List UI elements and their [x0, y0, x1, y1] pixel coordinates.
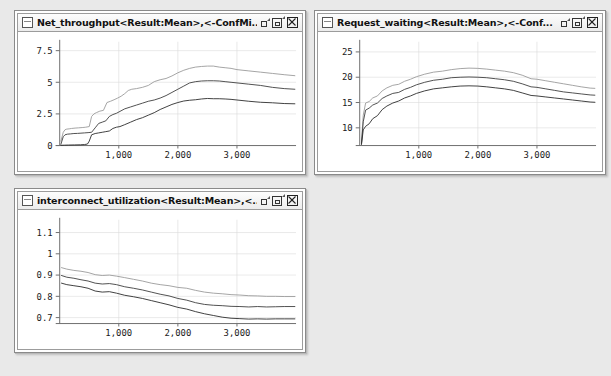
- svg-text:2,000: 2,000: [464, 150, 491, 160]
- svg-text:0: 0: [47, 141, 52, 151]
- document-icon: [22, 195, 33, 206]
- chart-plot-net-throughput: 02.557.51,0002,0003,000: [18, 32, 302, 171]
- maximize-icon[interactable]: [272, 196, 282, 206]
- svg-text:10: 10: [342, 123, 353, 133]
- svg-text:2.5: 2.5: [37, 109, 53, 119]
- svg-text:2,000: 2,000: [164, 150, 191, 160]
- minimize-icon[interactable]: [261, 199, 267, 205]
- chart-plot-interconnect-utilization: 0.70.80.911.11,0002,0003,000: [18, 210, 302, 349]
- svg-text:3,000: 3,000: [224, 150, 251, 160]
- svg-text:7.5: 7.5: [37, 46, 53, 56]
- window-title: Net_throughput<Result:Mean>,<-ConfMi...: [37, 17, 257, 29]
- chart-window-interconnect-utilization[interactable]: interconnect_utilization<Result:Mean>,<.…: [14, 188, 306, 353]
- svg-text:0.7: 0.7: [37, 313, 53, 323]
- svg-text:5: 5: [47, 78, 52, 88]
- svg-text:1: 1: [47, 249, 52, 259]
- window-inner-frame: Request_waiting<Result:Mean>,<-Conf... 1…: [317, 13, 603, 172]
- svg-text:3,000: 3,000: [524, 150, 551, 160]
- close-icon[interactable]: [287, 17, 298, 28]
- window-controls: [261, 17, 299, 28]
- svg-text:0.9: 0.9: [37, 270, 53, 280]
- window-controls: [561, 17, 599, 28]
- svg-text:20: 20: [342, 73, 353, 83]
- svg-text:3,000: 3,000: [224, 328, 251, 338]
- window-titlebar[interactable]: Request_waiting<Result:Mean>,<-Conf...: [318, 14, 602, 32]
- chart-svg: 101520251,0002,0003,000: [318, 32, 602, 171]
- svg-text:2,000: 2,000: [164, 328, 191, 338]
- chart-window-request-waiting[interactable]: Request_waiting<Result:Mean>,<-Conf... 1…: [314, 10, 606, 175]
- maximize-icon[interactable]: [272, 18, 282, 28]
- document-icon: [322, 17, 333, 28]
- window-inner-frame: interconnect_utilization<Result:Mean>,<.…: [17, 191, 303, 350]
- window-titlebar[interactable]: interconnect_utilization<Result:Mean>,<.…: [18, 192, 302, 210]
- svg-text:1,000: 1,000: [405, 150, 432, 160]
- chart-window-net-throughput[interactable]: Net_throughput<Result:Mean>,<-ConfMi... …: [14, 10, 306, 175]
- minimize-icon[interactable]: [261, 21, 267, 27]
- svg-text:15: 15: [342, 98, 353, 108]
- chart-svg: 0.70.80.911.11,0002,0003,000: [18, 210, 302, 349]
- window-controls: [261, 195, 299, 206]
- window-inner-frame: Net_throughput<Result:Mean>,<-ConfMi... …: [17, 13, 303, 172]
- window-titlebar[interactable]: Net_throughput<Result:Mean>,<-ConfMi...: [18, 14, 302, 32]
- maximize-icon[interactable]: [572, 18, 582, 28]
- svg-text:1,000: 1,000: [105, 328, 132, 338]
- close-icon[interactable]: [587, 17, 598, 28]
- svg-text:25: 25: [342, 47, 353, 57]
- minimize-icon[interactable]: [561, 21, 567, 27]
- window-title: Request_waiting<Result:Mean>,<-Conf...: [337, 17, 557, 29]
- svg-text:1,000: 1,000: [105, 150, 132, 160]
- window-title: interconnect_utilization<Result:Mean>,<.…: [37, 195, 257, 207]
- svg-text:0.8: 0.8: [37, 292, 53, 302]
- close-icon[interactable]: [287, 195, 298, 206]
- chart-svg: 02.557.51,0002,0003,000: [18, 32, 302, 171]
- document-icon: [22, 17, 33, 28]
- chart-plot-request-waiting: 101520251,0002,0003,000: [318, 32, 602, 171]
- svg-text:1.1: 1.1: [37, 228, 53, 238]
